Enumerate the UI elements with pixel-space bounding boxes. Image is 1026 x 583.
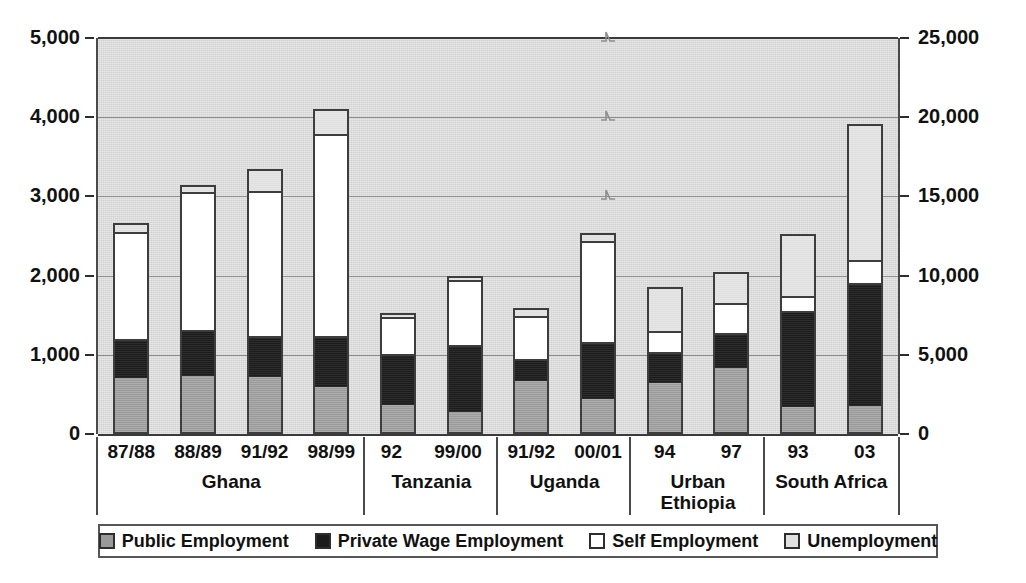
bar-segment-public	[715, 368, 747, 432]
category-year-label: 97	[721, 441, 742, 463]
left-axis-tick-label: 1,000	[0, 344, 80, 364]
bar-segment-private	[849, 285, 881, 406]
bar-segment-self	[315, 136, 347, 339]
legend-item-unemployment: Unemployment	[784, 531, 937, 552]
category-year-label: 94	[654, 441, 675, 463]
bar-segment-self	[115, 234, 147, 341]
bar-segment-private	[249, 338, 281, 376]
right-axis-tick	[900, 275, 909, 277]
bar-segment-unemployment	[115, 225, 147, 234]
category-year-label: 92	[381, 441, 402, 463]
bar-ghana-88-89	[180, 185, 216, 434]
category-year-labels: 87/8888/8991/9298/99	[98, 441, 365, 463]
left-axis-tick	[85, 37, 94, 39]
bar-segment-private	[382, 356, 414, 405]
stacked-bar-chart: 5,0004,0003,0002,0001,0000 25,00020,0001…	[0, 0, 1026, 583]
right-axis-tick-label: 10,000	[918, 265, 979, 285]
category-year-label: 00/01	[574, 441, 622, 463]
right-axis-tick-label: 0	[918, 423, 929, 443]
bar-ghana-98-99	[313, 109, 349, 434]
right-axis-tick	[900, 433, 909, 435]
country-label: UrbanEthiopia	[631, 471, 764, 514]
left-axis-tick-label: 5,000	[0, 27, 80, 47]
category-year-label: 91/92	[241, 441, 289, 463]
right-axis-tick	[900, 354, 909, 356]
bar-south-africa-93	[780, 234, 816, 434]
bar-ghana-87-88	[113, 223, 149, 434]
category-year-labels: 9299/00	[365, 441, 498, 463]
legend-item-private: Private Wage Employment	[315, 531, 563, 552]
bar-segment-public	[315, 387, 347, 432]
bar-segment-public	[582, 399, 614, 432]
left-axis-tick-label: 0	[0, 423, 80, 443]
bar-segment-unemployment	[582, 235, 614, 243]
legend-swatch-private	[315, 533, 331, 549]
bar-segment-public	[782, 407, 814, 432]
bar-uganda-00-01	[580, 233, 616, 434]
right-axis-tick-label: 15,000	[918, 185, 979, 205]
left-axis-tick	[85, 354, 94, 356]
bar-urban-ethiopia-97	[713, 272, 749, 434]
bar-segment-unemployment	[649, 289, 681, 332]
bar-segment-unemployment	[315, 111, 347, 135]
legend: Public EmploymentPrivate Wage Employment…	[98, 524, 938, 558]
bar-segment-unemployment	[182, 187, 214, 195]
bar-segment-unemployment	[715, 274, 747, 305]
category-year-label: 03	[854, 441, 875, 463]
left-axis-tick	[85, 275, 94, 277]
left-axis-tick	[85, 195, 94, 197]
country-label: Ghana	[98, 471, 365, 492]
category-group-tanzania: 9299/00Tanzania	[363, 437, 498, 515]
bar-segment-unemployment	[849, 126, 881, 262]
category-year-label: 99/00	[434, 441, 482, 463]
category-year-labels: 91/9200/01	[498, 441, 631, 463]
category-year-label: 88/89	[174, 441, 222, 463]
legend-label: Public Employment	[122, 531, 289, 552]
category-year-labels: 9497	[631, 441, 764, 463]
bar-tanzania-99-00	[447, 276, 483, 434]
gridline	[98, 117, 898, 118]
left-axis-tick-label: 2,000	[0, 265, 80, 285]
country-label: Tanzania	[365, 471, 498, 492]
bar-segment-private	[315, 338, 347, 386]
right-axis-tick-label: 5,000	[918, 344, 968, 364]
category-axis: 87/8888/8991/9298/99Ghana9299/00Tanzania…	[96, 437, 896, 515]
bar-segment-public	[382, 405, 414, 432]
bar-segment-public	[249, 377, 281, 432]
bar-segment-private	[582, 344, 614, 400]
bar-segment-self	[249, 193, 281, 338]
bar-segment-private	[115, 341, 147, 378]
bar-urban-ethiopia-94	[647, 287, 683, 434]
bar-uganda-91-92	[513, 308, 549, 434]
category-year-label: 87/88	[108, 441, 156, 463]
bar-segment-self	[182, 194, 214, 332]
bar-segment-self	[649, 333, 681, 355]
category-year-label: 98/99	[308, 441, 356, 463]
bar-segment-self	[849, 262, 881, 285]
legend-swatch-unemployment	[784, 533, 800, 549]
right-axis-tick	[900, 195, 909, 197]
bar-segment-unemployment	[782, 236, 814, 299]
bar-segment-unemployment	[249, 171, 281, 193]
left-axis-tick	[85, 433, 94, 435]
category-year-label: 91/92	[508, 441, 556, 463]
bar-segment-private	[449, 347, 481, 412]
bar-segment-self	[515, 318, 547, 361]
legend-item-public: Public Employment	[99, 531, 289, 552]
category-group-ghana: 87/8888/8991/9298/99Ghana	[96, 437, 365, 515]
country-label: South Africa	[765, 471, 898, 492]
bar-segment-private	[649, 354, 681, 383]
bar-segment-private	[182, 332, 214, 376]
plot-top-border	[98, 37, 898, 39]
legend-label: Self Employment	[612, 531, 758, 552]
bar-segment-self	[715, 305, 747, 335]
gridline	[98, 276, 898, 277]
right-axis-tick	[900, 116, 909, 118]
left-axis-tick-label: 3,000	[0, 185, 80, 205]
category-year-label: 93	[787, 441, 808, 463]
bar-segment-public	[449, 412, 481, 432]
legend-item-self: Self Employment	[589, 531, 758, 552]
legend-label: Unemployment	[807, 531, 937, 552]
bar-segment-public	[182, 376, 214, 432]
category-year-labels: 9303	[765, 441, 898, 463]
